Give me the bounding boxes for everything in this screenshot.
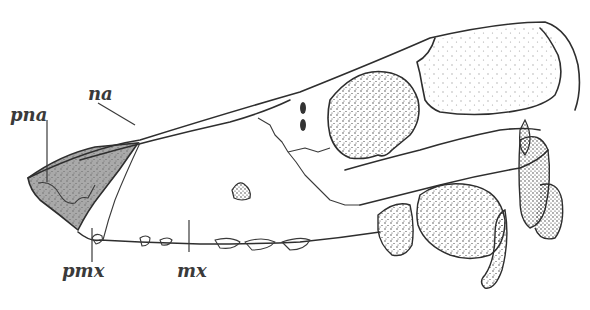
auditory-bulla xyxy=(378,120,563,288)
label-pmx: pmx xyxy=(62,262,104,280)
braincase-stipple xyxy=(421,28,560,113)
infraorbital-foramen xyxy=(232,183,250,200)
na-leader xyxy=(98,103,135,125)
prenasal-region xyxy=(28,143,138,230)
label-mx: mx xyxy=(177,262,207,280)
skull-diagram: pna na pmx mx xyxy=(0,0,590,310)
label-pna: pna xyxy=(10,106,47,124)
label-na: na xyxy=(88,85,113,103)
